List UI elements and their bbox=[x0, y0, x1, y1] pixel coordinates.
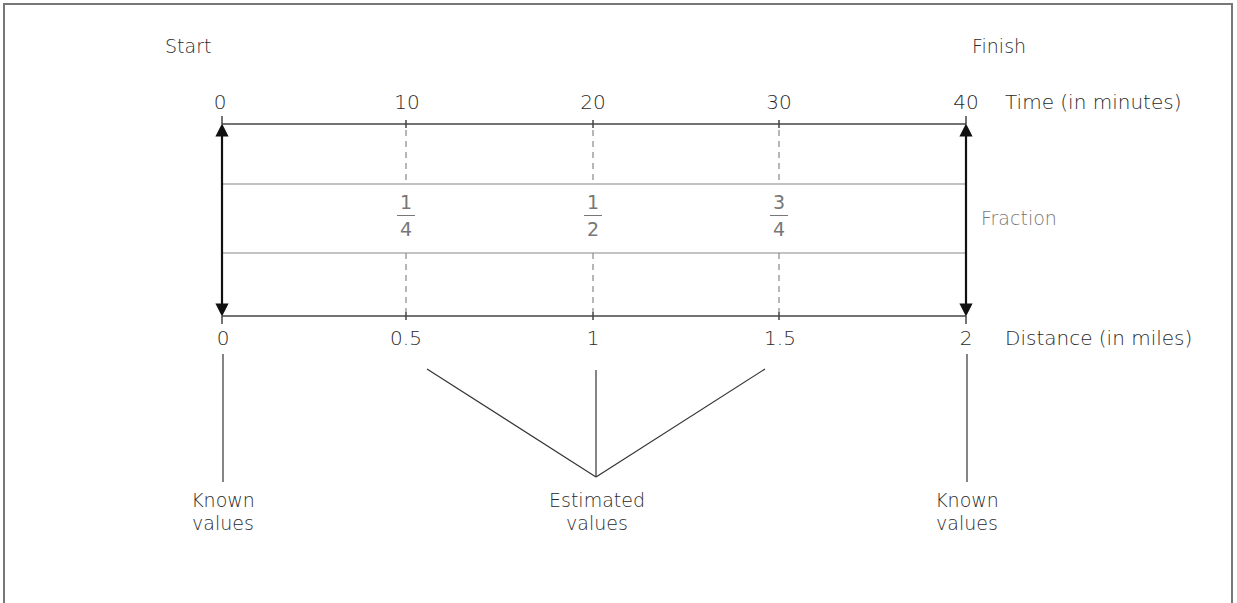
distance-axis-label: Distance (in miles) bbox=[1005, 328, 1192, 348]
time-axis-line bbox=[222, 116, 966, 128]
start-label: Start bbox=[165, 37, 211, 56]
leader-lines bbox=[223, 354, 967, 482]
known-values-right: Known values bbox=[935, 489, 999, 535]
time-tick-40: 40 bbox=[953, 92, 978, 112]
time-tick-10: 10 bbox=[394, 92, 419, 112]
time-tick-20: 20 bbox=[580, 92, 605, 112]
time-axis-label: Time (in minutes) bbox=[1005, 92, 1181, 112]
fraction-label: Fraction bbox=[981, 209, 1057, 228]
distance-tick-0-5: 0.5 bbox=[390, 328, 422, 348]
time-tick-0: 0 bbox=[214, 92, 227, 112]
distance-tick-0: 0 bbox=[217, 328, 230, 348]
distance-tick-1: 1 bbox=[587, 328, 600, 348]
distance-tick-1-5: 1.5 bbox=[764, 328, 796, 348]
time-tick-30: 30 bbox=[766, 92, 791, 112]
fraction-one-quarter: 14 bbox=[397, 193, 415, 239]
finish-label: Finish bbox=[972, 37, 1026, 56]
fraction-one-half: 12 bbox=[584, 193, 602, 239]
known-values-left: Known values bbox=[191, 489, 255, 535]
distance-tick-2: 2 bbox=[960, 328, 973, 348]
estimated-values: Estimated values bbox=[549, 489, 645, 535]
fraction-three-quarters: 34 bbox=[770, 193, 788, 239]
distance-axis-line bbox=[222, 312, 966, 324]
